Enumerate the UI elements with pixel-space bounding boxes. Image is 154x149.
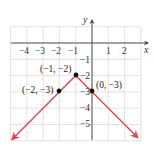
graph: x y −4 −3 −2 −1 1 2 −1 −2 −3 −4 −5 (−1, … xyxy=(0,0,154,149)
point-label-vertex: (−1, −2) xyxy=(40,64,71,75)
point-right xyxy=(90,89,95,94)
point-label-left: (−2, −3) xyxy=(22,85,53,96)
y-tick-label: −5 xyxy=(80,119,90,129)
y-axis-label: y xyxy=(82,14,88,25)
x-axis-label: x xyxy=(143,44,149,55)
y-tick-labels: −1 −2 −3 −4 −5 xyxy=(80,55,90,129)
x-tick-label: −2 xyxy=(51,46,61,56)
point-vertex xyxy=(74,73,79,78)
x-tick-labels: −4 −3 −2 −1 1 2 xyxy=(19,46,127,56)
y-tick-label: −1 xyxy=(80,55,90,65)
y-tick-label: −2 xyxy=(80,71,90,81)
x-tick-label: 2 xyxy=(122,46,127,56)
x-tick-label: −3 xyxy=(35,46,45,56)
point-label-right: (0, −3) xyxy=(96,80,122,91)
point-left xyxy=(57,89,62,94)
x-tick-label: 1 xyxy=(106,46,111,56)
x-tick-label: −4 xyxy=(19,46,29,56)
x-tick-label: −1 xyxy=(68,46,78,56)
y-tick-label: −4 xyxy=(80,103,90,113)
